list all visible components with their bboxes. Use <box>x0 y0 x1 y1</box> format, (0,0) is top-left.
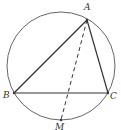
point-m <box>60 119 62 121</box>
label-a: A <box>83 2 91 12</box>
point-b <box>13 92 15 94</box>
circumcircle <box>7 12 115 120</box>
label-m: M <box>54 122 65 130</box>
label-b: B <box>2 90 10 100</box>
segment-ab <box>14 20 87 93</box>
geometry-diagram: A B C M <box>0 0 121 130</box>
point-c <box>107 92 109 94</box>
point-a <box>86 19 88 21</box>
segment-ca <box>87 20 108 93</box>
label-c: C <box>110 91 117 101</box>
segment-am-dashed <box>61 20 87 120</box>
